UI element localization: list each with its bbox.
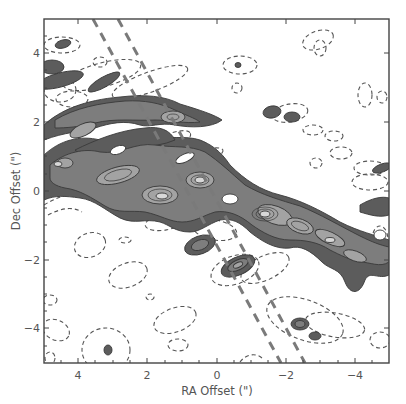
x-tick-label: −2 (278, 369, 294, 382)
x-tick-labels: 4 2 0 −2 −4 (75, 369, 364, 382)
x-tick-label: −4 (347, 369, 363, 382)
x-tick-label: 0 (214, 369, 221, 382)
y-tick-label: −2 (24, 254, 40, 267)
x-tick-label: 2 (144, 369, 151, 382)
x-axis-label: RA Offset (") (181, 384, 253, 398)
y-tick-label: 0 (33, 185, 40, 198)
y-tick-label: 2 (33, 116, 40, 129)
y-axis-label: Dec Offset (") (9, 152, 23, 230)
y-tick-label: 4 (33, 47, 40, 60)
y-tick-labels: 4 2 0 −2 −4 (24, 47, 40, 335)
y-tick-label: −4 (24, 322, 40, 335)
contour-map-figure: 4 2 0 −2 −4 4 2 0 −2 −4 RA Offset (") De… (0, 0, 406, 404)
x-tick-label: 4 (75, 369, 82, 382)
